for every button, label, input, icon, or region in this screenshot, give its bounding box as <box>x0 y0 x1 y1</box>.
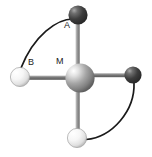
atom-label-A: A <box>64 21 70 30</box>
atom-label-M: M <box>56 57 64 66</box>
molecule-diagram-canvas <box>0 0 152 157</box>
atom-ligand-right <box>124 66 141 83</box>
atom-ligand-bottom <box>67 128 86 147</box>
arc-right-to-bottom <box>86 83 134 140</box>
atom-center-M <box>65 63 94 92</box>
atom-label-B: B <box>28 58 34 67</box>
molecule-figure: A B M <box>0 0 152 157</box>
atom-ligand-top-A <box>68 5 87 24</box>
atom-ligand-left-B <box>10 67 29 86</box>
